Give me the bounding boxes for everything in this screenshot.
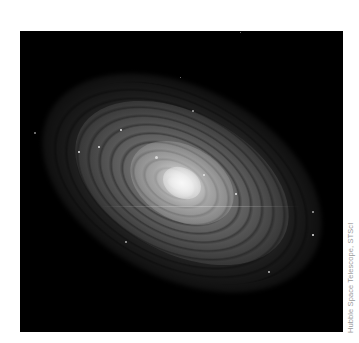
star — [155, 156, 158, 159]
image-credit: Hubble Space Telescope, STScI — [346, 223, 355, 333]
star — [125, 241, 127, 243]
star — [78, 151, 80, 153]
star — [34, 132, 36, 134]
star — [203, 174, 205, 176]
star — [268, 271, 270, 273]
star — [312, 211, 314, 213]
galaxy-photo — [20, 31, 343, 332]
star — [240, 32, 241, 33]
star — [180, 77, 181, 78]
star — [98, 146, 100, 148]
scan-artifact-line — [100, 206, 300, 207]
star — [120, 129, 122, 131]
star — [192, 110, 194, 112]
star — [235, 193, 237, 195]
star — [312, 234, 314, 236]
